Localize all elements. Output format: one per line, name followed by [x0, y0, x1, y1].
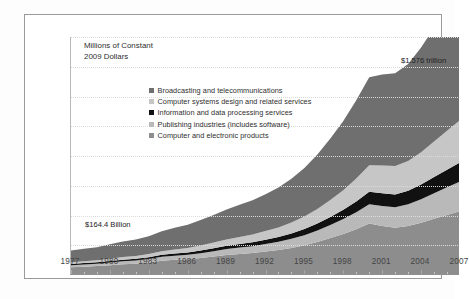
x-axis-minor-tick — [395, 272, 396, 275]
legend-label: Publishing industries (includes software… — [158, 120, 290, 129]
x-axis-label: 1980 — [99, 257, 118, 266]
legend-swatch-icon — [149, 122, 154, 127]
x-axis-minor-tick — [123, 272, 124, 275]
x-axis-tick — [110, 270, 111, 274]
x-axis-minor-tick — [291, 272, 292, 275]
x-axis-minor-tick — [253, 272, 254, 275]
x-axis-minor-tick — [278, 272, 279, 275]
x-axis-tick — [149, 270, 150, 274]
x-axis-label: 2001 — [372, 257, 391, 266]
x-axis-minor-tick — [240, 272, 241, 275]
x-axis-tick — [71, 270, 72, 274]
x-axis-minor-tick — [356, 272, 357, 275]
legend-swatch-icon — [149, 99, 154, 104]
x-axis-minor-tick — [84, 272, 85, 275]
figure-caption — [50, 292, 260, 299]
plot-area: 02004006008001000120014001600 — [70, 37, 459, 275]
y-gridline — [71, 156, 459, 157]
x-axis-label: 1992 — [255, 257, 274, 266]
x-axis-label: 1977 — [60, 257, 79, 266]
x-axis-label: 1995 — [294, 257, 313, 266]
annotation-end-total: $1.576 trillion — [401, 56, 446, 65]
legend-swatch-icon — [149, 88, 154, 93]
annotation-start-total: $164.4 Billion — [85, 220, 131, 229]
legend-item: Computer systems design and related serv… — [149, 96, 311, 107]
legend-item: Information and data processing services — [149, 107, 311, 118]
legend-label: Computer systems design and related serv… — [158, 97, 312, 106]
x-axis-minor-tick — [317, 272, 318, 275]
x-axis-tick — [304, 270, 305, 274]
x-axis-minor-tick — [330, 272, 331, 275]
x-axis-label: 1986 — [177, 257, 196, 266]
x-axis-label: 1983 — [138, 257, 157, 266]
legend-label: Broadcasting and telecommunications — [158, 86, 283, 95]
y-gridline — [71, 186, 459, 187]
x-axis-tick — [343, 270, 344, 274]
x-axis-tick — [188, 270, 189, 274]
x-axis-minor-tick — [162, 272, 163, 275]
legend-label: Information and data processing services — [158, 108, 293, 117]
x-axis-minor-tick — [408, 272, 409, 275]
legend-item: Broadcasting and telecommunications — [149, 85, 311, 96]
y-gridline — [71, 67, 459, 68]
x-axis-minor-tick — [97, 272, 98, 275]
x-axis-minor-tick — [369, 272, 370, 275]
x-axis-tick — [266, 270, 267, 274]
x-axis-minor-tick — [175, 272, 176, 275]
y-gridline — [71, 245, 459, 246]
legend-label: Computer and electronic products — [158, 131, 269, 140]
x-axis-label: 2004 — [411, 257, 430, 266]
x-axis-minor-tick — [447, 272, 448, 275]
chart-frame: Millions of Constant 2009 Dollars 020040… — [24, 14, 442, 279]
legend-item: Computer and electronic products — [149, 130, 311, 141]
y-gridline — [71, 216, 459, 217]
legend-swatch-icon — [149, 133, 154, 138]
x-axis-label: 1989 — [216, 257, 235, 266]
x-axis-tick — [227, 270, 228, 274]
x-axis-label: 1998 — [333, 257, 352, 266]
x-axis-minor-tick — [201, 272, 202, 275]
legend-swatch-icon — [149, 110, 154, 115]
x-axis-label: 2007 — [449, 257, 468, 266]
legend-item: Publishing industries (includes software… — [149, 119, 311, 130]
x-axis-minor-tick — [434, 272, 435, 275]
chart-legend: Broadcasting and telecommunicationsCompu… — [149, 85, 311, 141]
x-axis-tick — [382, 270, 383, 274]
y-gridline — [71, 37, 459, 38]
x-axis-minor-tick — [214, 272, 215, 275]
x-axis-tick — [421, 270, 422, 274]
x-axis-minor-tick — [136, 272, 137, 275]
